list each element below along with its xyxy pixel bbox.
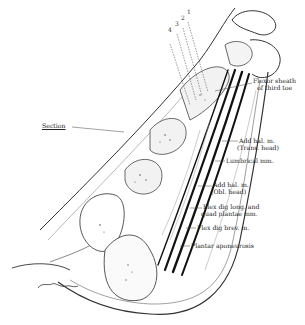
section-number-1: 1 <box>187 8 191 15</box>
tarsal-cuneiform <box>150 118 186 154</box>
navicular <box>125 159 162 194</box>
calcaneus <box>104 235 157 301</box>
label-add-hal-obl-2: (Obl. head) <box>211 189 246 196</box>
toe-tip <box>232 11 276 35</box>
label-flex-dig-long-2: quad plantae mm. <box>201 211 258 218</box>
toe-pad <box>250 40 280 78</box>
label-flex-dig-brev: Flex dig brev. m. <box>197 225 249 232</box>
label-add-hal-trans-2: (Trans. head) <box>237 145 279 152</box>
achilles-line <box>12 264 70 270</box>
label-lumbrical: Lumbrical mm. <box>226 158 274 165</box>
label-plantar-aponeurosis: Plantar aponeurosis <box>191 243 254 250</box>
section-number-4: 4 <box>168 26 172 33</box>
label-section: Section <box>42 123 66 130</box>
phalanx <box>225 41 252 66</box>
artist-signature <box>38 284 78 288</box>
section-number-2: 2 <box>181 14 185 21</box>
section-number-3: 3 <box>175 20 179 27</box>
label-flexor-sheath-2: of third toe <box>257 85 292 92</box>
dorsal-skin-outline <box>40 8 235 230</box>
